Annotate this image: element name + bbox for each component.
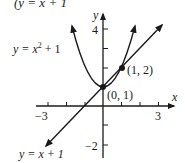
parabola-label-rest: + 1 <box>42 42 61 56</box>
point-label-1-2: (1, 2) <box>127 63 153 77</box>
top-caption-fragment: (y = x + 1 <box>14 0 67 10</box>
x-tick-label-neg3: −3 <box>35 109 48 123</box>
y-axis-label: y <box>92 8 99 22</box>
point-1-2 <box>119 65 125 71</box>
point-0-1 <box>100 84 106 90</box>
parabola-label-main: y = x <box>12 42 38 56</box>
y-tick-label-4: 4 <box>92 23 98 37</box>
line-label: y = x + 1 <box>18 147 64 161</box>
x-axis <box>36 102 174 106</box>
point-label-0-1: (0, 1) <box>107 88 133 102</box>
y-tick-label-neg2: −2 <box>85 139 98 153</box>
parabola-label: y = x2 + 1 <box>12 41 61 56</box>
x-tick-label-3: 3 <box>155 109 161 123</box>
graph: (y = x + 1 x −3 3 y 4 −2 (1, 2) (0, 1) y… <box>0 0 185 163</box>
x-axis-label: x <box>171 90 178 104</box>
